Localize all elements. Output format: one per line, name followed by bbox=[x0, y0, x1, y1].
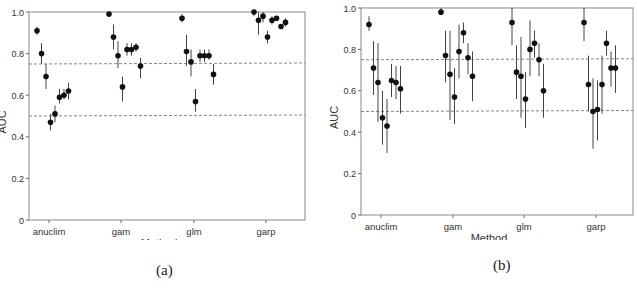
x-axis-label: Method bbox=[471, 232, 508, 240]
data-point bbox=[52, 111, 58, 117]
data-point bbox=[179, 15, 185, 21]
data-point bbox=[470, 74, 476, 80]
x-tick-label-garp: garp bbox=[586, 221, 605, 232]
y-tick-label: 0 bbox=[351, 211, 356, 221]
y-tick-label: 0.4 bbox=[343, 128, 356, 138]
data-point bbox=[120, 84, 126, 90]
series-gam bbox=[106, 11, 143, 101]
data-point bbox=[523, 96, 529, 102]
data-point bbox=[184, 49, 190, 55]
y-tick-label: 0.8 bbox=[343, 45, 356, 55]
data-point bbox=[256, 18, 262, 24]
data-point bbox=[514, 69, 520, 75]
data-point bbox=[536, 57, 542, 63]
series-garp bbox=[251, 9, 288, 43]
x-tick-label-glm: glm bbox=[186, 226, 201, 237]
chart-b-caption: (b) bbox=[493, 257, 511, 274]
y-tick-label: 0.4 bbox=[11, 132, 24, 142]
data-point bbox=[380, 115, 386, 121]
data-point bbox=[599, 82, 605, 88]
data-point bbox=[39, 51, 45, 57]
reference-line bbox=[29, 115, 305, 116]
data-point bbox=[251, 9, 257, 15]
reference-line bbox=[361, 59, 633, 60]
x-tick-label-gam: gam bbox=[444, 221, 463, 232]
data-point bbox=[366, 22, 372, 28]
data-point bbox=[438, 9, 444, 15]
data-point bbox=[188, 59, 194, 65]
data-point bbox=[613, 65, 619, 71]
data-point bbox=[66, 88, 72, 94]
series-gam bbox=[438, 8, 475, 124]
data-point bbox=[595, 107, 601, 113]
data-point bbox=[447, 71, 453, 77]
series-anuclim bbox=[366, 16, 403, 153]
data-point bbox=[371, 65, 377, 71]
data-point bbox=[106, 11, 112, 17]
y-tick-label: 0.2 bbox=[343, 169, 356, 179]
data-point bbox=[43, 74, 49, 80]
y-tick-label: 0.6 bbox=[11, 91, 24, 101]
chart-a-plot: 00.20.40.60.81.0AUCanuclimgamglmgarpMeth… bbox=[0, 0, 320, 240]
chart-panel-b: 00.20.40.60.81.0AUCanuclimgamglmgarpMeth… bbox=[320, 0, 637, 290]
data-point bbox=[206, 53, 212, 59]
y-tick-label: 0 bbox=[19, 216, 24, 226]
data-point bbox=[541, 88, 547, 94]
y-axis-label: AUC bbox=[328, 106, 340, 129]
data-point bbox=[393, 80, 399, 86]
data-point bbox=[452, 94, 458, 100]
x-axis-label: Method bbox=[141, 237, 178, 240]
data-point bbox=[443, 53, 449, 59]
data-point bbox=[604, 40, 610, 46]
y-tick-label: 0.6 bbox=[343, 86, 356, 96]
y-tick-label: 0.8 bbox=[11, 49, 24, 59]
data-point bbox=[111, 34, 117, 40]
data-point bbox=[461, 30, 467, 36]
data-point bbox=[115, 53, 121, 59]
y-tick-label: 1.0 bbox=[11, 8, 24, 18]
data-point bbox=[398, 86, 404, 92]
y-tick-label: 0.2 bbox=[11, 174, 24, 184]
y-axis-label: AUC bbox=[0, 110, 8, 133]
x-tick-label-anuclim: anuclim bbox=[33, 226, 66, 237]
data-point bbox=[527, 47, 533, 53]
chart-b-plot: 00.20.40.60.81.0AUCanuclimgamglmgarpMeth… bbox=[320, 0, 637, 240]
data-point bbox=[581, 20, 587, 26]
data-point bbox=[532, 40, 538, 46]
chart-panel-a: 00.20.40.60.81.0AUCanuclimgamglmgarpMeth… bbox=[0, 0, 320, 290]
data-point bbox=[278, 24, 284, 30]
data-point bbox=[274, 15, 280, 21]
series-anuclim bbox=[34, 27, 71, 131]
x-tick-label-garp: garp bbox=[256, 226, 275, 237]
data-point bbox=[283, 20, 289, 26]
y-tick-label: 1.0 bbox=[343, 4, 356, 14]
data-point bbox=[138, 63, 144, 69]
chart-a-caption: (a) bbox=[156, 262, 173, 279]
data-point bbox=[375, 80, 381, 86]
data-point bbox=[265, 34, 271, 40]
data-point bbox=[509, 20, 515, 26]
data-point bbox=[48, 119, 54, 125]
data-point bbox=[211, 72, 217, 78]
data-point bbox=[456, 49, 462, 55]
data-point bbox=[193, 99, 199, 105]
data-point bbox=[34, 28, 40, 34]
x-tick-label-gam: gam bbox=[112, 226, 131, 237]
series-glm bbox=[509, 8, 546, 128]
reference-line bbox=[29, 63, 305, 64]
data-point bbox=[586, 82, 592, 88]
data-point bbox=[465, 55, 471, 61]
data-point bbox=[133, 45, 139, 51]
data-point bbox=[61, 92, 67, 98]
series-garp bbox=[581, 8, 618, 149]
x-tick-label-anuclim: anuclim bbox=[365, 221, 398, 232]
x-tick-label-glm: glm bbox=[516, 221, 531, 232]
data-point bbox=[260, 13, 266, 19]
data-point bbox=[384, 123, 390, 129]
data-point bbox=[518, 74, 524, 80]
